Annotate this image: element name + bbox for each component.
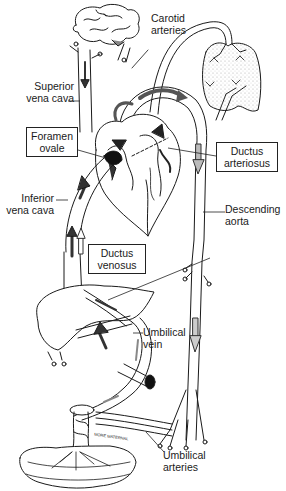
label-ductus-venosus: Ductus venosus xyxy=(88,244,146,274)
foramen-ovale-leader xyxy=(78,150,106,158)
label-line: aorta xyxy=(225,215,280,227)
label-line: Umbilical xyxy=(143,326,186,338)
label-umbilical-vein: Umbilical vein xyxy=(143,326,186,350)
label-line: Umbilical xyxy=(163,449,206,461)
label-ductus-arteriosus: Ductus arteriosus xyxy=(216,142,278,172)
label-line: vena cava xyxy=(2,204,54,216)
label-umbilical-arteries: Umbilical arteries xyxy=(163,449,206,473)
label-line: Ductus xyxy=(221,145,273,157)
label-line: vein xyxy=(143,338,186,350)
label-line: arteriosus xyxy=(221,157,273,169)
label-line: Descending xyxy=(225,203,280,215)
umbilical-arteries-leader xyxy=(146,432,164,452)
ductus-arteriosus-leader xyxy=(168,148,216,156)
label-line: Inferior xyxy=(2,192,54,204)
label-line: Ductus xyxy=(93,247,141,259)
label-line: arteries xyxy=(163,461,206,473)
label-inferior-vena-cava: Inferior vena cava xyxy=(2,192,54,216)
label-line: venosus xyxy=(93,259,141,271)
label-descending-aorta: Descending aorta xyxy=(225,203,280,227)
